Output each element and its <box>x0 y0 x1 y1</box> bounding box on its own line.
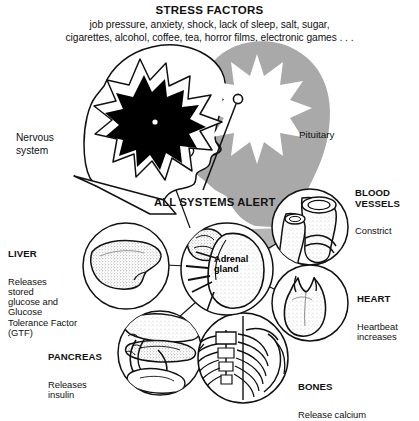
callout-heart: HEART Heartbeat increases <box>357 277 398 359</box>
callout-blood-vessels-title: BLOOD VESSELS <box>355 188 400 209</box>
callout-heart-title: HEART <box>357 294 398 304</box>
liver-illustration <box>83 223 169 309</box>
callout-pancreas: PANCREAS Releases insulin <box>48 335 102 417</box>
callout-adrenal-gland: Adrenal gland <box>214 254 248 275</box>
stress-response-diagram: STRESS FACTORS job pressure, anxiety, sh… <box>0 0 419 421</box>
callout-liver-title: LIVER <box>8 249 77 259</box>
bones-illustration <box>190 313 288 403</box>
heart-illustration <box>272 265 348 341</box>
callout-nervous-system: Nervous system <box>16 131 54 158</box>
callout-heart-body: Heartbeat increases <box>357 322 398 342</box>
callout-pancreas-body: Releases insulin <box>48 380 102 400</box>
blood-vessels-illustration <box>272 189 348 270</box>
callout-liver-body: Releases stored glucose and Glucose Tole… <box>8 277 77 338</box>
center-caption-all-systems-alert: ALL SYSTEMS ALERT <box>154 196 276 208</box>
callout-pancreas-title: PANCREAS <box>48 352 102 362</box>
callout-bones: BONES Release calcium <box>298 365 366 421</box>
callout-bones-title: BONES <box>298 382 366 392</box>
callout-pituitary: Pituitary <box>299 130 334 141</box>
pancreas-illustration <box>118 311 202 395</box>
callout-blood-vessels: BLOOD VESSELS Constrict <box>355 171 400 254</box>
callout-bones-body: Release calcium <box>298 410 366 420</box>
callout-blood-vessels-body: Constrict <box>355 226 400 236</box>
